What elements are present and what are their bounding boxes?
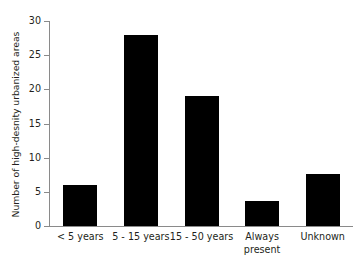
bar bbox=[124, 35, 158, 226]
y-axis-tick-label: 15 bbox=[1, 119, 41, 129]
y-axis-tick-label: 0 bbox=[1, 221, 41, 231]
y-axis-tick-label: 10 bbox=[1, 153, 41, 163]
bar bbox=[185, 96, 219, 226]
x-axis-tick-label-line: < 5 years bbox=[57, 231, 104, 242]
x-axis-tick-label-line: Unknown bbox=[300, 231, 345, 242]
bar-chart: Number of high-desnity urbanized areas 0… bbox=[0, 0, 363, 269]
bar bbox=[245, 201, 279, 226]
y-axis-tick bbox=[44, 158, 49, 159]
x-axis-tick-label-line: Always bbox=[245, 231, 279, 242]
y-axis-tick-label: 5 bbox=[1, 187, 41, 197]
y-axis-tick-label: 20 bbox=[1, 84, 41, 94]
y-axis-tick-label: 30 bbox=[1, 16, 41, 26]
y-axis-tick bbox=[44, 21, 49, 22]
plot-area bbox=[50, 21, 353, 226]
y-axis-tick bbox=[44, 55, 49, 56]
y-axis-tick bbox=[44, 226, 49, 227]
y-axis-tick bbox=[44, 89, 49, 90]
y-axis-tick-label: 25 bbox=[1, 50, 41, 60]
x-axis-tick-label: Unknown bbox=[280, 231, 363, 244]
bar bbox=[306, 174, 340, 226]
y-axis-tick bbox=[44, 124, 49, 125]
x-axis-tick-label-line: present bbox=[219, 244, 305, 257]
bar bbox=[63, 185, 97, 226]
x-axis-line bbox=[49, 226, 353, 227]
y-axis-tick bbox=[44, 192, 49, 193]
